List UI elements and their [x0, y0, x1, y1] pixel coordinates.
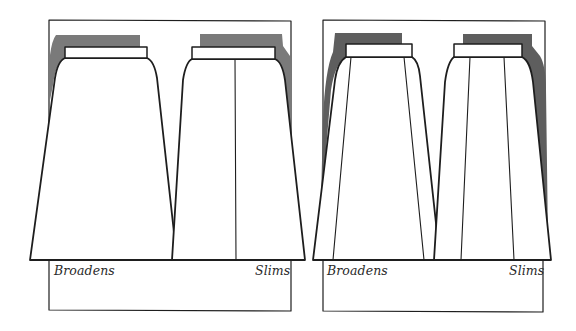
panel-2-left-label: Broadens: [327, 265, 388, 278]
panel-1-right-skirt-waistband: [192, 47, 275, 59]
panel-1-right-skirt-body: [172, 59, 305, 260]
panel-1-right-label: Slims: [255, 265, 290, 278]
panel-1-left-label: Broadens: [54, 265, 115, 278]
panel-2-right-skirt-waistband: [454, 44, 522, 57]
panel-2-right-skirt-body: [434, 57, 551, 260]
panel-2-right-label: Slims: [509, 265, 544, 278]
panel-1-left-skirt-waistband: [65, 47, 147, 58]
panel-2-left-skirt-waistband: [346, 44, 412, 57]
skirt-comparison-illustration: [0, 0, 576, 331]
